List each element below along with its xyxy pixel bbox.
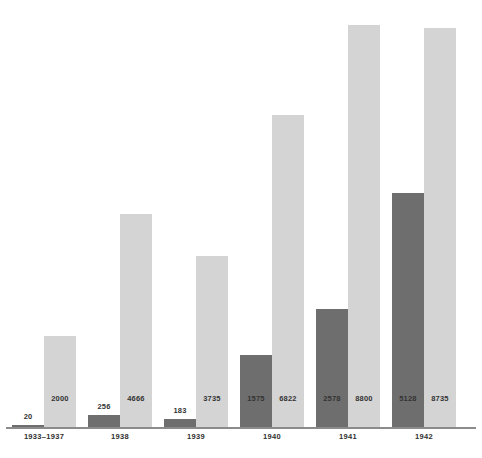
bar-dark[interactable]: 2578 xyxy=(316,309,348,427)
bar-group: 1575 6822 xyxy=(240,0,304,427)
bar-value-light: 2000 xyxy=(44,394,76,403)
bar-value-light: 4666 xyxy=(120,394,152,403)
bar-light[interactable]: 3735 xyxy=(196,256,228,427)
axis-label-1940: 1940 xyxy=(240,432,304,441)
axis-label-1941: 1941 xyxy=(316,432,380,441)
bar-dark[interactable]: 5128 xyxy=(392,193,424,427)
bar-value-light: 3735 xyxy=(196,394,228,403)
bar-light[interactable]: 4666 xyxy=(120,214,152,427)
axis-label-1933-1937: 1933–1937 xyxy=(12,432,76,441)
bar-value-dark: 2578 xyxy=(316,394,348,403)
bar-value-light: 8800 xyxy=(348,394,380,403)
x-axis-line xyxy=(6,427,476,429)
bar-dark[interactable]: 183 xyxy=(164,419,196,427)
bar-group: 2578 8800 xyxy=(316,0,380,427)
bar-light[interactable]: 6822 xyxy=(272,115,304,427)
bar-value-light: 8735 xyxy=(424,394,456,403)
bar-value-dark: 256 xyxy=(88,402,120,411)
axis-label-1938: 1938 xyxy=(88,432,152,441)
bar-light[interactable]: 8735 xyxy=(424,28,456,427)
bar-value-dark: 5128 xyxy=(392,394,424,403)
bar-group: 183 3735 xyxy=(164,0,228,427)
bar-chart: after the start of the war 20 2000 256 4… xyxy=(0,0,482,458)
bar-dark[interactable]: 1575 xyxy=(240,355,272,427)
bar-group: 256 4666 xyxy=(88,0,152,427)
bar-group: 20 2000 xyxy=(12,0,76,427)
x-axis-labels: 1933–1937 1938 1939 1940 1941 1942 xyxy=(0,432,482,448)
axis-label-1942: 1942 xyxy=(392,432,456,441)
bar-value-dark: 20 xyxy=(12,412,44,421)
bar-light[interactable]: 2000 xyxy=(44,336,76,427)
bar-light[interactable]: 8800 xyxy=(348,25,380,427)
plot-area: 20 2000 256 4666 183 3735 xyxy=(0,0,482,428)
bar-dark[interactable]: 256 xyxy=(88,415,120,427)
bar-group: 5128 8735 xyxy=(392,0,456,427)
bar-value-dark: 183 xyxy=(164,406,196,415)
axis-label-1939: 1939 xyxy=(164,432,228,441)
bar-value-light: 6822 xyxy=(272,394,304,403)
bar-value-dark: 1575 xyxy=(240,394,272,403)
